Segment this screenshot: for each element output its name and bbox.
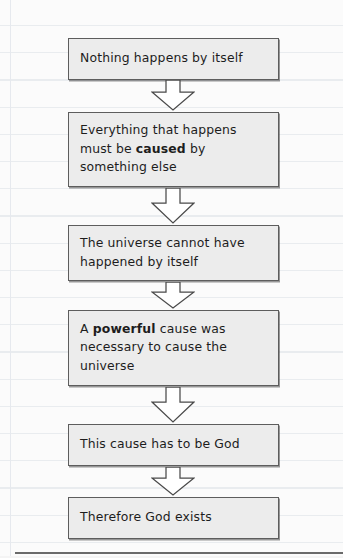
- flowchart-node-6[interactable]: Therefore God exists: [68, 497, 279, 539]
- flow-arrow-down-2: [151, 188, 195, 224]
- flowchart-node-5-label: This cause has to be God: [80, 435, 240, 454]
- flowchart-node-2[interactable]: Everything that happens must be caused b…: [68, 112, 279, 187]
- flowchart-node-1[interactable]: Nothing happens by itself: [68, 38, 279, 80]
- flowchart-node-4[interactable]: A powerful cause was necessary to cause …: [68, 310, 279, 386]
- flowchart-node-5[interactable]: This cause has to be God: [68, 424, 279, 466]
- flow-arrow-down-4: [151, 387, 195, 423]
- flowchart-node-6-label: Therefore God exists: [80, 508, 212, 527]
- notebook-page: Nothing happens by itself Everything tha…: [0, 0, 343, 558]
- flowchart-node-3[interactable]: The universe cannot have happened by its…: [68, 225, 279, 281]
- flowchart-node-3-label: The universe cannot have happened by its…: [80, 234, 245, 271]
- flow-arrow-down-5: [151, 467, 195, 496]
- flowchart-node-1-label: Nothing happens by itself: [80, 49, 243, 68]
- flowchart-node-4-label: A powerful cause was necessary to cause …: [80, 320, 227, 376]
- flowchart: Nothing happens by itself Everything tha…: [0, 0, 343, 558]
- flowchart-node-2-label: Everything that happens must be caused b…: [80, 121, 237, 177]
- flow-arrow-down-3: [151, 282, 195, 309]
- flow-arrow-down-1: [151, 80, 195, 111]
